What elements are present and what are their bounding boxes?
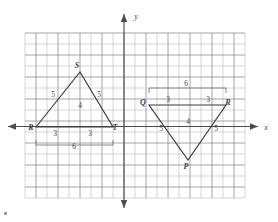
vertex-label-Q: Q [140, 98, 146, 107]
vertex-label-S: S [75, 61, 80, 70]
base-measure-bracket [149, 88, 226, 93]
figure-root: RST554336QRP335546 x y [0, 0, 278, 222]
edge-measure-label: 5 [97, 90, 101, 99]
edge-measure-label: 4 [186, 117, 190, 126]
vertex-label-R: R [224, 98, 231, 107]
y-axis-arrow-up-icon [121, 14, 127, 22]
edge-measure-label: 4 [78, 101, 82, 110]
grid-lines [25, 33, 245, 198]
x-axis-label: x [263, 123, 268, 132]
base-measure-label: 6 [72, 142, 76, 151]
vertex-label-R: R [27, 123, 34, 132]
edge-measure-label: 3 [53, 129, 57, 138]
edge-measure-label: 5 [159, 124, 163, 133]
base-measure-label: 6 [184, 79, 188, 88]
edge-measure-label: 3 [206, 95, 210, 104]
vertex-label-T: T [113, 123, 119, 132]
y-axis-label: y [133, 12, 138, 21]
edge-measure-label: 3 [166, 95, 170, 104]
axes [8, 14, 258, 208]
edge-measure-label: 5 [214, 124, 218, 133]
y-axis-arrow-down-icon [121, 200, 127, 208]
triangle-RST: RST554336 [27, 61, 118, 151]
edge-measure-label: 3 [88, 129, 92, 138]
triangle-QRP: QRP335546 [140, 79, 231, 171]
x-axis-arrow-right-icon [250, 123, 258, 129]
vertex-label-P: P [184, 162, 189, 171]
edge-measure-label: 5 [51, 90, 55, 99]
x-axis-arrow-left-icon [8, 123, 16, 129]
corner-marker [4, 212, 7, 215]
triangle-RST-outline [36, 72, 113, 127]
coordinate-plane-figure: RST554336QRP335546 x y [0, 0, 278, 222]
